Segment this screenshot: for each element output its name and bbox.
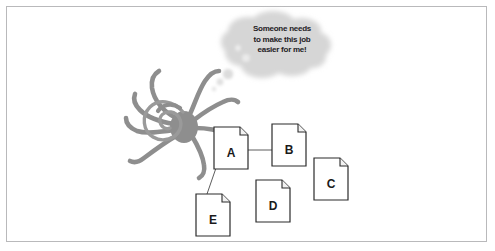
doc-b-label: B [272, 144, 306, 156]
doc-d-label: D [256, 200, 290, 212]
diagram-canvas: Someone needs to make this job easier fo… [0, 0, 495, 251]
doc-c-label: C [314, 178, 348, 190]
thought-line-1: Someone needs [236, 24, 328, 35]
thought-bubble-text: Someone needs to make this job easier fo… [236, 24, 328, 56]
thought-line-2: to make this job [236, 35, 328, 46]
thought-line-3: easier for me! [236, 45, 328, 56]
doc-a-label: A [214, 147, 248, 159]
doc-e-label: E [196, 214, 230, 226]
spider-legs-left [126, 71, 176, 162]
connector-a-e [207, 168, 216, 194]
